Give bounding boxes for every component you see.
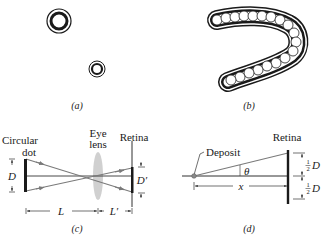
panel-c-caption: (c) <box>71 223 83 235</box>
figure-canvas: (a) <box>0 0 322 239</box>
svg-text:1: 1 <box>306 181 309 188</box>
d-label: D <box>7 170 16 182</box>
half-d-lower-label: 1 2 D <box>306 181 321 195</box>
deposit-dot <box>192 174 197 179</box>
panel-a: (a) <box>47 9 105 112</box>
theta-label: θ <box>244 165 250 177</box>
deposit-leader-line <box>194 152 204 175</box>
half-d-dimensions <box>293 153 305 199</box>
svg-text:D: D <box>311 182 320 194</box>
d-prime-label: D′ <box>136 174 148 186</box>
panel-d-caption: (d) <box>243 223 255 235</box>
retina-image-bar <box>131 167 134 193</box>
svg-text:2: 2 <box>306 165 309 172</box>
svg-text:2: 2 <box>306 188 309 195</box>
retina-label: Retina <box>120 131 149 143</box>
eye-lens-label-line2: lens <box>89 138 107 150</box>
circular-dot-label-line2: dot <box>22 146 36 158</box>
x-label: x <box>238 180 244 192</box>
large-ring-pattern <box>47 9 71 33</box>
panel-a-caption: (a) <box>71 100 83 112</box>
circular-dot-bar <box>24 159 27 192</box>
panel-d: Retina Deposit θ x <box>182 131 320 235</box>
chain-ring-pattern <box>212 11 301 85</box>
retina-label-d: Retina <box>273 131 302 143</box>
l-label: L <box>57 205 64 217</box>
small-ring-pattern <box>89 61 105 77</box>
svg-text:D: D <box>311 159 320 171</box>
deposit-label: Deposit <box>206 146 240 158</box>
svg-text:1: 1 <box>306 158 309 165</box>
panel-b-caption: (b) <box>243 100 255 112</box>
circular-dot-label-line1: Circular <box>2 134 38 146</box>
half-d-upper-label: 1 2 D <box>306 158 321 172</box>
panel-c: Circular dot Eye lens Retina D <box>2 127 148 235</box>
panel-b: (b) <box>212 11 301 112</box>
l-prime-label: L′ <box>109 205 119 217</box>
